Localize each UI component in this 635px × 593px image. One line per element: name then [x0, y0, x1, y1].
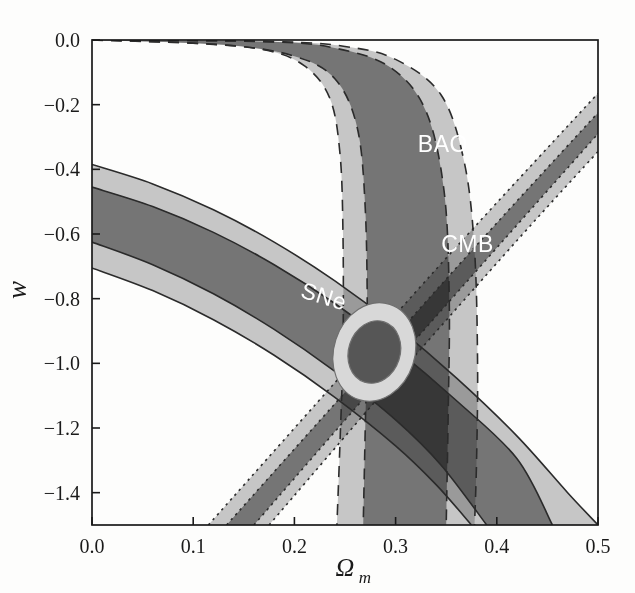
y-tick-label-2: −0.4	[44, 158, 80, 180]
probe-label-bao: BAO	[418, 131, 468, 157]
y-tick-label-4: −0.8	[44, 288, 80, 310]
figure-container: 0.00.10.20.30.40.5 0.0−0.2−0.4−0.6−0.8−1…	[0, 0, 635, 593]
probe-label-cmb: CMB	[441, 231, 494, 257]
y-axis-title: w	[2, 281, 32, 299]
constraint-plot: 0.00.10.20.30.40.5 0.0−0.2−0.4−0.6−0.8−1…	[0, 0, 635, 593]
x-tick-label-5: 0.5	[586, 535, 611, 557]
x-axis-title-subscript: m	[359, 568, 371, 587]
x-tick-label-3: 0.3	[383, 535, 408, 557]
y-tick-label-3: −0.6	[44, 223, 80, 245]
y-tick-label-5: −1.0	[44, 352, 80, 374]
x-tick-label-4: 0.4	[484, 535, 509, 557]
x-tick-label-0: 0.0	[80, 535, 105, 557]
y-tick-label-0: 0.0	[55, 29, 80, 51]
y-tick-label-1: −0.2	[44, 94, 80, 116]
x-tick-label-2: 0.2	[282, 535, 307, 557]
y-tick-label-7: −1.4	[44, 482, 80, 504]
x-axis-title-omega: Ω	[336, 553, 355, 582]
x-tick-label-1: 0.1	[181, 535, 206, 557]
y-tick-label-6: −1.2	[44, 417, 80, 439]
